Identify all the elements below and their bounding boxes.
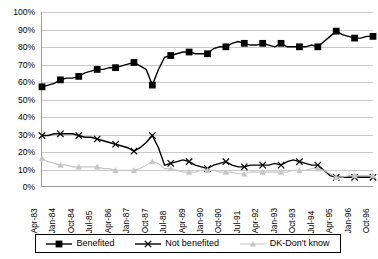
x-axis-tick-label: Jan-96 — [343, 208, 351, 233]
legend-item[interactable]: DK-Don't know — [240, 239, 330, 249]
legend-marker-square-icon — [46, 239, 72, 249]
x-axis-tick-label: Jul-94 — [306, 210, 314, 233]
data-point — [39, 83, 46, 90]
y-axis-tick-label: 10% — [18, 165, 35, 174]
y-axis-tick-label: 60% — [18, 78, 35, 87]
data-point — [149, 82, 156, 89]
x-axis-tick-label: Jan-90 — [196, 208, 204, 233]
y-axis-tick-label: 90% — [18, 25, 35, 34]
legend-item-label: Not benefited — [165, 239, 219, 248]
data-point — [94, 66, 101, 73]
x-axis-tick-label: Jan-93 — [269, 208, 277, 233]
series-benefited — [39, 28, 377, 90]
series-dk-don-t-know — [39, 155, 376, 180]
data-point — [149, 132, 155, 138]
data-point — [351, 35, 358, 42]
y-axis-tick-label: 100% — [13, 8, 35, 17]
y-axis-tick-label: 30% — [18, 130, 35, 139]
data-point — [278, 40, 285, 47]
y-axis-tick-label: 50% — [18, 95, 35, 104]
x-axis: Apr-83Jan-84Oct-84Jul-85Apr-86Jan-87Oct-… — [41, 189, 373, 233]
series-not-benefited — [39, 131, 376, 181]
y-axis-tick-label: 20% — [18, 148, 35, 157]
x-axis-tick-label: Apr-89 — [177, 208, 185, 233]
plot-area — [41, 12, 373, 187]
x-axis-tick-label: Oct-87 — [140, 208, 148, 233]
data-point — [204, 50, 211, 57]
chart-legend: BenefitedNot benefitedDK-Don't know — [35, 234, 341, 253]
legend-marker-x-icon — [135, 239, 161, 249]
series-line — [42, 31, 373, 87]
data-point — [112, 64, 119, 71]
x-axis-tick-label: Jul-91 — [233, 210, 241, 233]
x-axis-tick-label: Jul-85 — [85, 210, 93, 233]
x-axis-tick-label: Jul-88 — [159, 210, 167, 233]
x-axis-tick-label: Apr-86 — [103, 208, 111, 233]
data-point — [314, 43, 321, 50]
data-point — [149, 158, 155, 164]
legend-item[interactable]: Benefited — [46, 239, 114, 249]
data-point — [57, 76, 64, 83]
x-axis-tick-label: Apr-83 — [30, 208, 38, 233]
data-point — [131, 59, 138, 66]
y-axis-tick-label: 70% — [18, 60, 35, 69]
chart-container: 0%10%20%30%40%50%60%70%80%90%100% Apr-83… — [0, 0, 378, 259]
legend-marker-triangle-icon — [240, 239, 266, 249]
data-point — [131, 148, 137, 154]
data-point — [259, 40, 266, 47]
y-axis: 0%10%20%30%40%50%60%70%80%90%100% — [0, 0, 38, 199]
y-axis-tick-label: 0% — [23, 183, 35, 192]
data-point — [222, 43, 229, 50]
legend-item-label: Benefited — [76, 239, 114, 248]
data-point — [370, 33, 377, 40]
data-point — [333, 28, 340, 35]
x-axis-tick-label: Jan-84 — [48, 208, 56, 233]
data-point — [167, 52, 174, 59]
x-axis-tick-label: Apr-92 — [251, 208, 259, 233]
legend-item-label: DK-Don't know — [270, 239, 330, 248]
y-axis-tick-label: 80% — [18, 43, 35, 52]
series-layer — [42, 12, 373, 186]
data-point — [296, 43, 303, 50]
x-axis-tick-label: Oct-96 — [362, 208, 370, 233]
data-point — [39, 155, 45, 161]
x-axis-tick-label: Oct-90 — [214, 208, 222, 233]
legend-item[interactable]: Not benefited — [135, 239, 219, 249]
data-point — [241, 40, 248, 47]
x-axis-tick-label: Jan-87 — [122, 208, 130, 233]
data-point — [186, 49, 193, 56]
x-axis-tick-label: Apr-95 — [325, 208, 333, 233]
y-axis-tick-label: 40% — [18, 113, 35, 122]
x-axis-tick-label: Oct-93 — [288, 208, 296, 233]
data-point — [75, 73, 82, 80]
x-axis-tick-label: Oct-84 — [67, 208, 75, 233]
